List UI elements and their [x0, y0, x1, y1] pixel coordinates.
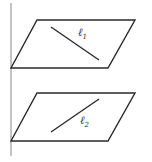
parallel-planes-diagram: ℓ1 ℓ2	[0, 0, 152, 162]
label-l2: ℓ2	[80, 114, 90, 129]
upper-plane	[11, 20, 135, 68]
label-l1: ℓ1	[78, 26, 87, 41]
line-l2	[51, 99, 99, 132]
line-l1	[51, 27, 99, 60]
